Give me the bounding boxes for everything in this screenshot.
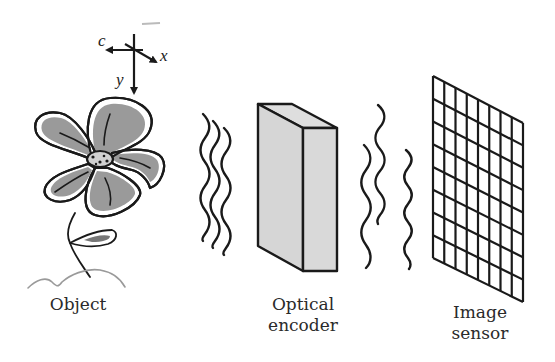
optical-encoder-label: Optical encoder bbox=[258, 294, 348, 336]
object-label-text: Object bbox=[50, 294, 107, 314]
image-sensor-label-line1: Image bbox=[440, 302, 520, 323]
coordinate-axes-icon bbox=[107, 23, 160, 93]
axis-label-x: x bbox=[160, 46, 168, 66]
object-label: Object bbox=[38, 294, 118, 315]
optical-encoder-label-line2: encoder bbox=[258, 315, 348, 336]
flower-icon bbox=[28, 98, 164, 288]
image-sensor-label-line2: sensor bbox=[440, 323, 520, 344]
optical-encoder-label-line1: Optical bbox=[258, 294, 348, 315]
image-sensor-grid-icon bbox=[433, 76, 523, 302]
outgoing-light-waves-icon bbox=[362, 105, 412, 269]
optical-encoder-box-icon bbox=[258, 104, 337, 271]
incoming-light-waves-icon bbox=[201, 114, 231, 255]
diagram-canvas: c x y Object Optical encoder Image senso… bbox=[0, 0, 555, 362]
axis-label-y: y bbox=[116, 70, 124, 90]
axis-label-c: c bbox=[98, 31, 106, 51]
image-sensor-label: Image sensor bbox=[440, 302, 520, 344]
